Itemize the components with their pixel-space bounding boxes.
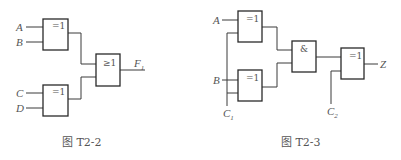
label-b: B bbox=[16, 36, 23, 48]
wire-g1-to-or bbox=[68, 33, 96, 64]
label-a: A bbox=[15, 21, 23, 33]
label-d: D bbox=[15, 102, 24, 114]
gate-symbol: ≥1 bbox=[103, 58, 116, 68]
xor-gate-b-c1: =1 bbox=[238, 70, 262, 101]
caption-t2-3: 图 T2-3 bbox=[281, 136, 321, 149]
label-c1: C1 bbox=[223, 107, 234, 122]
label-z: Z bbox=[380, 58, 387, 70]
and-gate: & bbox=[292, 41, 316, 72]
figure-t2-2: =1 =1 ≥1 A B C D F1 图 T2-2 bbox=[15, 19, 145, 149]
xor-gate-final: =1 bbox=[341, 48, 364, 79]
label-c2: C2 bbox=[327, 105, 338, 120]
label-a: A bbox=[212, 14, 220, 26]
gate-symbol: & bbox=[300, 44, 308, 54]
gate-symbol: =1 bbox=[246, 14, 259, 24]
label-c: C bbox=[16, 87, 24, 99]
gate-symbol: =1 bbox=[349, 51, 362, 61]
xor-gate-ab: =1 bbox=[43, 19, 68, 50]
wire-g2-to-or bbox=[68, 77, 96, 99]
figure-t2-3: =1 =1 & =1 A B C1 C2 Z 图 T2-3 bbox=[212, 11, 387, 149]
xor-gate-cd: =1 bbox=[43, 85, 68, 116]
xor-gate-a-c1: =1 bbox=[238, 11, 262, 42]
logic-diagrams: =1 =1 ≥1 A B C D F1 图 T2-2 bbox=[0, 0, 401, 160]
caption-t2-2: 图 T2-2 bbox=[62, 136, 102, 149]
or-gate: ≥1 bbox=[96, 54, 120, 86]
gate-symbol: =1 bbox=[52, 21, 65, 31]
label-b: B bbox=[213, 74, 220, 86]
wire-g2-to-and bbox=[262, 63, 292, 87]
wire-g1-to-and bbox=[262, 27, 292, 50]
gate-symbol: =1 bbox=[52, 87, 65, 97]
gate-symbol: =1 bbox=[246, 73, 259, 83]
wire-c2 bbox=[331, 71, 341, 104]
